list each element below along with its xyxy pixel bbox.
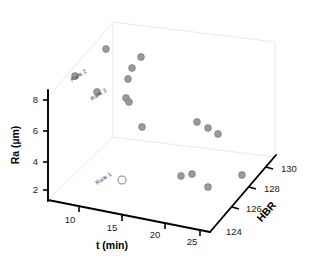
data-point xyxy=(129,65,136,72)
data-point xyxy=(138,54,145,61)
data-point xyxy=(103,46,110,53)
z-axis-tick xyxy=(232,207,239,209)
z-axis-tick-label: 128 xyxy=(264,183,280,194)
x-axis-tick-label: 20 xyxy=(150,229,161,240)
data-point xyxy=(215,131,222,138)
data-point xyxy=(194,119,201,126)
z-axis-tick xyxy=(266,167,273,169)
data-point xyxy=(205,184,212,191)
data-point xyxy=(178,173,185,180)
rank1-open-marker xyxy=(118,176,126,184)
y-axis: 8 6 4 2 Ra (µm) xyxy=(9,90,48,201)
data-point xyxy=(125,76,132,83)
y-axis-tick-label: 2 xyxy=(33,184,38,195)
z-axis-tick xyxy=(249,187,256,189)
x-axis-tick-label: 25 xyxy=(187,236,198,247)
data-point xyxy=(139,124,146,131)
z-axis-tick-label: 124 xyxy=(226,226,242,237)
y-axis-title: Ra (µm) xyxy=(9,126,21,165)
x-axis-tick-label: 10 xyxy=(65,214,76,225)
y-axis-tick-label: 8 xyxy=(33,94,38,105)
data-point xyxy=(126,99,133,106)
plot-canvas: Rank 2 Rank 3 Rank 1 8 6 4 2 Ra (µm) 10 … xyxy=(0,0,309,258)
y-axis-tick-label: 6 xyxy=(33,125,38,136)
y-axis-tick-label: 4 xyxy=(33,156,38,167)
x-axis-tick-label: 15 xyxy=(107,222,118,233)
data-point xyxy=(205,125,212,132)
data-point xyxy=(189,171,196,178)
back-wall-pane xyxy=(113,22,275,157)
z-axis-tick-label: 130 xyxy=(281,163,297,174)
data-point xyxy=(239,172,246,179)
x-axis-title: t (min) xyxy=(96,239,128,251)
plot-box-frame xyxy=(48,22,275,232)
scatter3d-chart: Rank 2 Rank 3 Rank 1 8 6 4 2 Ra (µm) 10 … xyxy=(0,0,309,258)
